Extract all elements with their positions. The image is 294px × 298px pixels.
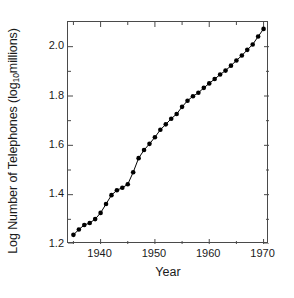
data-point	[115, 188, 120, 193]
data-point	[142, 148, 147, 153]
data-point	[212, 77, 217, 82]
data-point	[109, 193, 114, 198]
data-point	[240, 53, 245, 58]
data-point	[87, 221, 92, 226]
data-point	[93, 217, 98, 222]
data-point	[153, 135, 158, 140]
data-point	[174, 112, 179, 117]
data-point	[71, 233, 76, 238]
data-point	[131, 170, 136, 175]
data-point	[218, 72, 223, 77]
x-tick-label: 1940	[80, 248, 120, 259]
data-point	[245, 48, 250, 53]
data-point	[158, 127, 163, 132]
data-point	[104, 202, 109, 207]
data-point	[98, 211, 103, 216]
data-point	[125, 182, 130, 187]
y-tick-label: 2.0	[34, 40, 64, 51]
y-axis-title-after: millions)	[6, 28, 20, 73]
y-tick-label: 1.4	[34, 188, 64, 199]
data-point	[163, 122, 168, 127]
y-axis-title-before: Log Number of Telephones (log	[6, 82, 20, 253]
data-point	[147, 142, 152, 147]
plot-area	[67, 21, 268, 243]
axis-ticks	[68, 22, 269, 244]
x-axis-tick-labels: 1940195019601970	[0, 248, 294, 264]
data-point	[180, 105, 185, 110]
data-point	[234, 58, 239, 63]
data-point	[77, 227, 82, 232]
data-point	[82, 223, 87, 228]
data-markers	[71, 27, 266, 238]
data-point	[136, 156, 141, 161]
y-tick-label: 1.6	[34, 139, 64, 150]
telephone-growth-chart: Log Number of Telephones (log10 millions…	[0, 0, 294, 298]
data-point	[196, 90, 201, 95]
x-axis-title: Year	[67, 265, 269, 279]
y-axis-title: Log Number of Telephones (log10 millions…	[0, 16, 26, 266]
data-point	[261, 27, 266, 32]
y-tick-label: 1.2	[34, 238, 64, 249]
data-point	[223, 68, 228, 73]
data-point	[229, 63, 234, 68]
data-point	[207, 81, 212, 86]
data-point	[191, 94, 196, 99]
x-tick-label: 1960	[188, 248, 228, 259]
y-axis-title-subscript: 10	[11, 73, 21, 82]
data-point	[185, 98, 190, 103]
data-point	[202, 86, 207, 91]
data-point	[120, 185, 125, 190]
x-tick-label: 1950	[134, 248, 174, 259]
data-point	[250, 42, 255, 47]
data-point	[256, 34, 261, 39]
y-tick-label: 1.8	[34, 90, 64, 101]
plot-svg	[68, 22, 269, 244]
data-point	[169, 116, 174, 121]
x-tick-label: 1970	[243, 248, 283, 259]
